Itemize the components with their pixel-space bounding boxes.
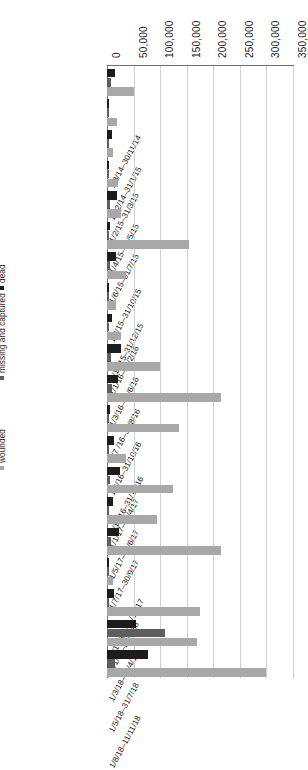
- bar-wounded: [107, 271, 126, 280]
- x-tick-label: 200,000: [217, 20, 228, 58]
- bar-dead: [107, 191, 117, 200]
- bar-group: [107, 97, 293, 128]
- bar-group: [107, 188, 293, 219]
- bar-dead: [107, 222, 110, 231]
- bar-wounded: [107, 362, 160, 371]
- bar-dead: [107, 375, 118, 384]
- bar-dead: [107, 467, 120, 476]
- bar-missing: [107, 414, 109, 423]
- bar-dead: [107, 558, 109, 567]
- bar-group: [107, 464, 293, 495]
- bar-wounded: [107, 424, 179, 433]
- bar-missing: [107, 384, 112, 393]
- legend-item-wounded: wounded: [0, 429, 7, 470]
- bar-missing: [107, 506, 109, 515]
- bar-wounded: [107, 179, 118, 188]
- bar-dead: [107, 344, 121, 353]
- bar-dead: [107, 528, 119, 537]
- bar-missing: [107, 78, 111, 87]
- bar-dead: [107, 405, 110, 414]
- bar-wounded: [107, 87, 134, 96]
- x-tick-label: 50,000: [138, 26, 149, 58]
- bar-missing: [107, 292, 109, 301]
- bar-dead: [107, 620, 136, 629]
- x-tick-label: 250,000: [244, 20, 255, 58]
- legend-swatch-wounded: [0, 466, 4, 470]
- bar-missing: [107, 537, 111, 546]
- bar-dead: [107, 69, 115, 78]
- bar-missing: [107, 629, 165, 638]
- bar-wounded: [107, 454, 126, 463]
- x-tick-label: 300,000: [270, 20, 281, 58]
- bar-dead: [107, 497, 113, 506]
- bar-wounded: [107, 301, 116, 310]
- bar-dead: [107, 99, 109, 108]
- bar-wounded: [107, 393, 221, 402]
- bar-group: [107, 403, 293, 434]
- legend-label-wounded: wounded: [0, 429, 7, 463]
- bar-missing: [107, 261, 110, 270]
- bar-dead: [107, 161, 109, 170]
- bar-wounded: [107, 607, 200, 616]
- bar-group: [107, 250, 293, 281]
- bar-wounded: [107, 209, 121, 218]
- bar-group: [107, 647, 293, 678]
- bar-missing: [107, 200, 110, 209]
- legend-item-dead: dead: [0, 264, 7, 290]
- bar-wounded: [107, 118, 117, 127]
- bar-missing: [107, 323, 109, 332]
- bar-missing: [107, 659, 115, 668]
- legend-swatch-missing: [0, 376, 4, 380]
- bar-wounded: [107, 577, 113, 586]
- bar-missing: [107, 598, 109, 607]
- x-tick-label: 150,000: [191, 20, 202, 58]
- bar-dead: [107, 436, 114, 445]
- bar-group: [107, 311, 293, 342]
- x-tick-label: 350,000: [297, 20, 308, 58]
- x-tick-label: 0: [111, 52, 122, 58]
- plot-area: [107, 66, 293, 678]
- bar-missing: [107, 476, 110, 485]
- bar-dead: [107, 314, 112, 323]
- chart-legend: dead missing and captured wounded: [0, 250, 22, 470]
- x-tick-label: 100,000: [164, 20, 175, 58]
- bar-wounded: [107, 148, 113, 157]
- bar-wounded: [107, 638, 197, 647]
- bar-group: [107, 127, 293, 158]
- bar-dead: [107, 283, 109, 292]
- bar-missing: [107, 567, 109, 576]
- legend-label-missing: missing and captured: [0, 293, 7, 373]
- bar-group: [107, 525, 293, 556]
- bar-group: [107, 341, 293, 372]
- gridline: [293, 66, 294, 678]
- bar-group: [107, 280, 293, 311]
- bar-wounded: [107, 240, 189, 249]
- bar-wounded: [107, 485, 173, 494]
- bar-dead: [107, 650, 148, 659]
- legend-label-dead: dead: [0, 264, 7, 283]
- legend-swatch-dead: [0, 286, 4, 290]
- bar-group: [107, 556, 293, 587]
- bar-wounded: [107, 668, 266, 677]
- legend-item-missing: missing and captured: [0, 293, 7, 380]
- bar-wounded: [107, 332, 121, 341]
- bar-missing: [107, 108, 109, 117]
- bar-missing: [107, 231, 109, 240]
- bar-missing: [107, 139, 109, 148]
- bar-group: [107, 158, 293, 189]
- bar-missing: [107, 353, 111, 362]
- bar-group: [107, 617, 293, 648]
- bar-group: [107, 494, 293, 525]
- bar-group: [107, 433, 293, 464]
- bar-dead: [107, 589, 114, 598]
- bar-group: [107, 372, 293, 403]
- bar-wounded: [107, 515, 157, 524]
- bar-group: [107, 66, 293, 97]
- bar-missing: [107, 445, 109, 454]
- bar-group: [107, 586, 293, 617]
- bar-group: [107, 219, 293, 250]
- bar-missing: [107, 170, 109, 179]
- bar-dead: [107, 252, 116, 261]
- bar-dead: [107, 130, 112, 139]
- bar-wounded: [107, 546, 221, 555]
